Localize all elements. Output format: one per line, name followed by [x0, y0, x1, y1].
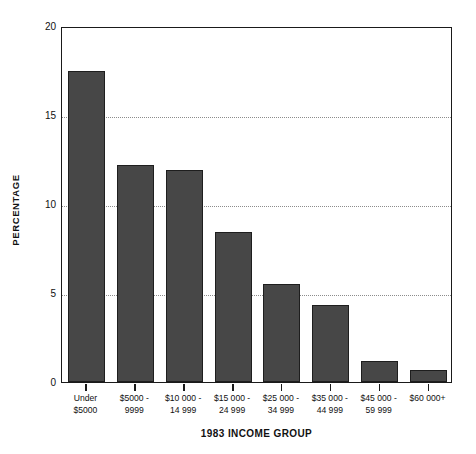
- bar: [166, 170, 203, 382]
- y-tick-label: 0: [30, 378, 56, 388]
- bar: [215, 232, 252, 382]
- x-tick-mark: [428, 384, 430, 391]
- x-tick-mark: [281, 384, 283, 391]
- y-axis-title: PERCENTAGE: [10, 150, 24, 270]
- x-axis-title: 1983 INCOME GROUP: [61, 428, 452, 439]
- bar: [117, 165, 154, 382]
- bar: [361, 361, 398, 382]
- y-tick-label: 20: [30, 22, 56, 32]
- bar: [410, 370, 447, 382]
- bar: [68, 71, 105, 383]
- x-tick-mark: [330, 384, 332, 391]
- x-tick-mark: [183, 384, 185, 391]
- y-tick-label: 5: [30, 289, 56, 299]
- x-tick-mark: [232, 384, 234, 391]
- y-tick-label: 15: [30, 111, 56, 121]
- x-tick-mark: [379, 384, 381, 391]
- plot-area: [61, 27, 452, 383]
- bar: [263, 284, 300, 382]
- bars-layer: [62, 28, 451, 382]
- x-tick-mark: [134, 384, 136, 391]
- y-tick-label: 10: [30, 200, 56, 210]
- x-tick-mark: [85, 384, 87, 391]
- bar-chart-figure: PERCENTAGE 05101520 Under$5000$5000 -999…: [0, 0, 476, 454]
- bar: [312, 305, 349, 382]
- x-tick-label: $60 000+: [395, 393, 461, 405]
